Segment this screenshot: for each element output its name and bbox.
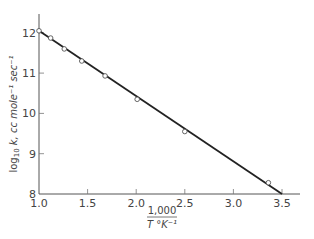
fit-line <box>39 31 282 194</box>
data-point <box>103 74 108 79</box>
y-tick-label: 11 <box>22 67 36 80</box>
x-axis-label-denominator: T °K⁻¹ <box>147 219 177 230</box>
data-point <box>37 28 42 33</box>
x-axis-label-numerator: 1,000 <box>148 205 177 216</box>
y-axis-label-rest: k, cc mole⁻¹ sec⁻¹ <box>8 55 19 148</box>
y-tick-label: 9 <box>29 148 36 161</box>
data-point <box>62 47 67 52</box>
data-point <box>48 36 53 41</box>
y-ticks: 89101112 <box>22 27 44 201</box>
y-tick-label: 10 <box>22 107 36 120</box>
data-point <box>266 180 271 185</box>
y-axis-label: log10 k, cc mole⁻¹ sec⁻¹ <box>8 55 21 172</box>
x-axis-label: 1,000 T °K⁻¹ <box>147 205 177 230</box>
chart: 1.01.52.02.53.03.5 89101112 1,000 T °K⁻¹… <box>0 0 314 239</box>
x-tick-label: 3.5 <box>273 197 291 210</box>
x-tick-label: 2.0 <box>127 197 145 210</box>
fit-line-group <box>39 31 282 194</box>
y-axis-label-subscript: 10 <box>13 148 21 157</box>
axes <box>39 14 300 194</box>
data-point <box>79 59 84 64</box>
data-point <box>183 129 188 134</box>
x-tick-label: 1.5 <box>79 197 97 210</box>
y-tick-label: 8 <box>29 188 36 201</box>
x-tick-label: 2.5 <box>176 197 194 210</box>
y-axis-label-log: log <box>8 157 19 172</box>
data-point <box>135 97 140 102</box>
y-tick-label: 12 <box>22 27 36 40</box>
x-tick-label: 3.0 <box>225 197 243 210</box>
